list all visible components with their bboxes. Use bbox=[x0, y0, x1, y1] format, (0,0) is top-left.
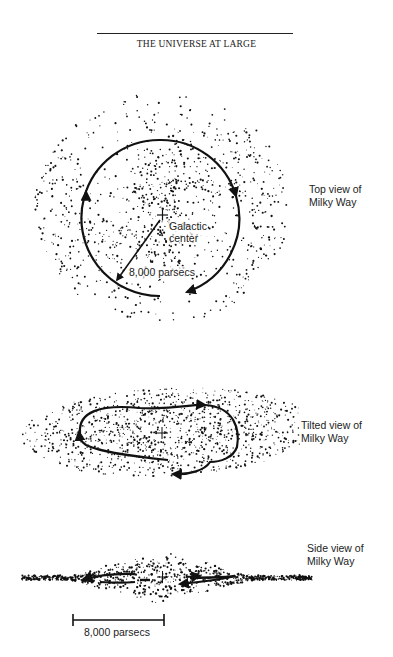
galactic-center-label-line2: center bbox=[169, 232, 207, 244]
tilted-view-caption-line1: Tilted view of bbox=[301, 419, 362, 432]
top-view-caption: Top view of Milky Way bbox=[309, 183, 362, 208]
tilted-view-caption: Tilted view of Milky Way bbox=[301, 419, 362, 444]
galactic-center-cross-icon bbox=[157, 210, 168, 221]
scale-bar-label: 8,000 parsecs bbox=[84, 626, 150, 639]
side-view-caption: Side view of Milky Way bbox=[307, 542, 364, 567]
side-view-caption-line2: Milky Way bbox=[307, 555, 364, 568]
galactic-center-label: Galactic center bbox=[168, 220, 208, 244]
tilted-center-cross-icon bbox=[156, 427, 168, 439]
tilted-view-caption-line2: Milky Way bbox=[301, 432, 362, 445]
tilted-view-star-field bbox=[22, 388, 300, 477]
top-view-star-field bbox=[34, 95, 287, 321]
radius-label: 8,000 parsecs bbox=[128, 266, 196, 278]
side-view-star-field bbox=[21, 553, 313, 603]
top-view-caption-line2: Milky Way bbox=[309, 196, 362, 209]
scale-bar bbox=[73, 614, 164, 626]
side-view-caption-line1: Side view of bbox=[307, 542, 364, 555]
galactic-center-label-line1: Galactic bbox=[169, 220, 207, 232]
top-view-caption-line1: Top view of bbox=[309, 183, 362, 196]
